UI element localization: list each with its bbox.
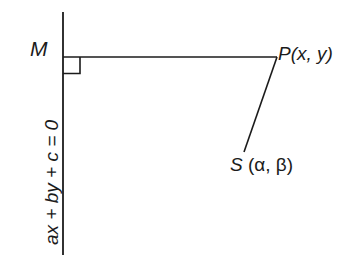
point-label-s-alpha: α	[254, 154, 265, 175]
point-label-s-close-paren: )	[287, 154, 293, 175]
right-angle-marker	[63, 57, 80, 74]
point-label-m: M	[30, 38, 48, 59]
point-label-s-beta: β	[276, 154, 287, 175]
segment-p-to-s	[244, 57, 277, 152]
point-label-s-comma: ,	[265, 154, 276, 175]
point-label-p: P(x, y)	[278, 44, 333, 63]
point-label-s: S (α, β)	[230, 155, 293, 174]
point-label-s-name: S	[230, 154, 243, 175]
geometry-diagram: M P(x, y) S (α, β) ax + by + c = 0	[0, 0, 344, 265]
line-equation-label: ax + by + c = 0	[42, 120, 61, 245]
